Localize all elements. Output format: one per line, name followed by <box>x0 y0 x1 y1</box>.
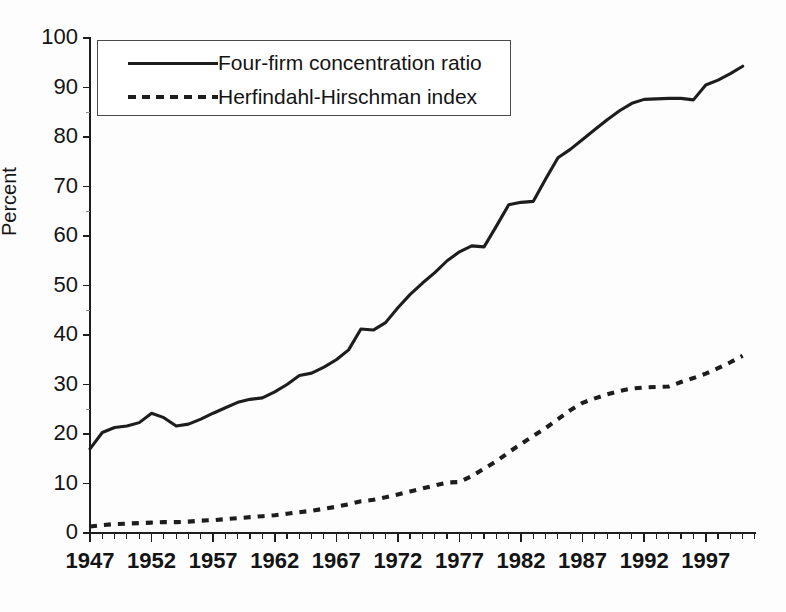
x-tick-minor <box>570 534 571 539</box>
y-tick <box>83 433 90 435</box>
x-tick-minor <box>225 534 226 539</box>
y-tick-label: 0 <box>34 521 78 543</box>
x-tick-minor <box>237 534 238 539</box>
x-tick-minor <box>680 534 681 539</box>
x-tick <box>397 534 399 542</box>
y-tick-minor <box>86 409 90 410</box>
y-tick <box>83 186 90 188</box>
x-tick-minor <box>533 534 534 539</box>
x-tick-minor <box>323 534 324 539</box>
y-tick-label: 50 <box>34 274 78 296</box>
x-tick-minor <box>422 534 423 539</box>
y-tick-label: 70 <box>34 175 78 197</box>
x-tick-minor <box>385 534 386 539</box>
x-tick <box>643 534 645 542</box>
x-tick-minor <box>471 534 472 539</box>
x-tick-minor <box>742 534 743 539</box>
x-tick <box>459 534 461 542</box>
y-tick-label: 30 <box>34 373 78 395</box>
line-herfindahl-hirschman-index <box>90 356 743 527</box>
x-tick-minor <box>286 534 287 539</box>
y-tick-label: 100 <box>34 26 78 48</box>
x-tick <box>151 534 153 542</box>
x-tick-minor <box>373 534 374 539</box>
y-tick <box>83 483 90 485</box>
x-tick-minor <box>249 534 250 539</box>
x-tick <box>582 534 584 542</box>
x-tick-minor <box>409 534 410 539</box>
x-tick-minor <box>730 534 731 539</box>
x-tick-minor <box>126 534 127 539</box>
x-tick-minor <box>631 534 632 539</box>
x-tick <box>89 534 91 542</box>
x-tick <box>212 534 214 542</box>
legend-label: Herfindahl-Hirschman index <box>218 86 477 108</box>
x-tick-minor <box>139 534 140 539</box>
x-tick-minor <box>754 534 755 539</box>
x-tick-minor <box>557 534 558 539</box>
y-tick <box>83 235 90 237</box>
y-tick <box>83 285 90 287</box>
x-tick-minor <box>299 534 300 539</box>
x-tick-minor <box>311 534 312 539</box>
x-tick <box>705 534 707 542</box>
y-tick <box>83 37 90 39</box>
chart-figure: Percent 0102030405060708090100 194719521… <box>0 0 786 612</box>
legend-label: Four-firm concentration ratio <box>218 52 482 74</box>
y-tick <box>83 136 90 138</box>
legend-item-four-firm-concentration-ratio: Four-firm concentration ratio <box>98 48 510 78</box>
x-tick-minor <box>594 534 595 539</box>
y-tick <box>83 334 90 336</box>
y-tick-minor <box>86 211 90 212</box>
x-tick-minor <box>262 534 263 539</box>
x-tick-minor <box>434 534 435 539</box>
legend-key-solid-line <box>98 52 218 74</box>
y-tick-label: 40 <box>34 323 78 345</box>
x-tick-minor <box>496 534 497 539</box>
x-tick <box>520 534 522 542</box>
x-tick-minor <box>360 534 361 539</box>
x-tick-minor <box>656 534 657 539</box>
x-tick-minor <box>446 534 447 539</box>
x-tick-minor <box>348 534 349 539</box>
legend-item-herfindahl-hirschman-index: Herfindahl-Hirschman index <box>98 82 510 112</box>
chart-legend: Four-firm concentration ratio Herfindahl… <box>97 40 511 116</box>
x-tick-minor <box>668 534 669 539</box>
y-tick-label: 60 <box>34 224 78 246</box>
x-tick-minor <box>508 534 509 539</box>
legend-key-dashed-line <box>98 86 218 108</box>
x-tick-minor <box>102 534 103 539</box>
y-tick-minor <box>86 310 90 311</box>
x-tick-minor <box>717 534 718 539</box>
x-tick-minor <box>163 534 164 539</box>
x-tick <box>336 534 338 542</box>
x-tick <box>274 534 276 542</box>
x-tick-minor <box>607 534 608 539</box>
x-tick-minor <box>114 534 115 539</box>
x-tick-minor <box>545 534 546 539</box>
y-tick-label: 20 <box>34 422 78 444</box>
y-tick <box>83 87 90 89</box>
line-four-firm-concentration-ratio <box>90 66 743 449</box>
y-tick-label: 80 <box>34 125 78 147</box>
x-tick-minor <box>483 534 484 539</box>
y-tick-minor <box>86 112 90 113</box>
x-tick-minor <box>188 534 189 539</box>
y-tick-label: 90 <box>34 76 78 98</box>
y-tick-label: 10 <box>34 472 78 494</box>
x-tick-minor <box>176 534 177 539</box>
x-tick-label: 1997 <box>666 549 746 573</box>
x-tick-minor <box>693 534 694 539</box>
x-tick-minor <box>200 534 201 539</box>
x-tick-minor <box>619 534 620 539</box>
y-tick <box>83 384 90 386</box>
